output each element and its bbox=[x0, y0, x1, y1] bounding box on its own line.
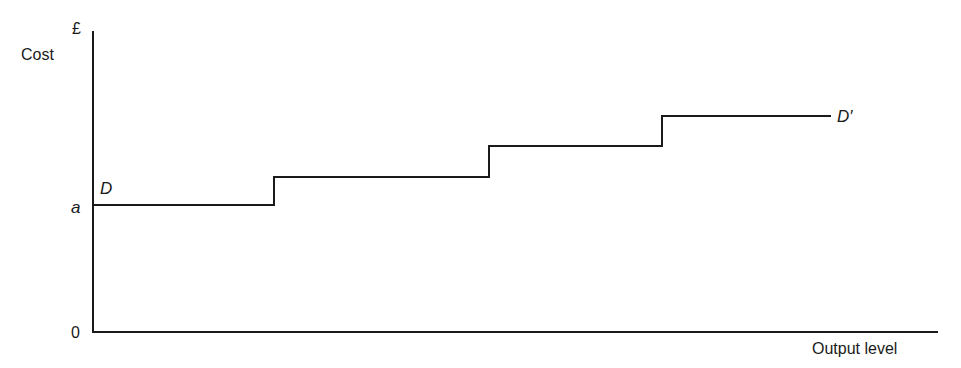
x-axis-label: Output level bbox=[812, 341, 897, 357]
curve-start-label: D bbox=[100, 180, 112, 197]
step-cost-line bbox=[93, 116, 831, 205]
curve-end-label: D′ bbox=[837, 108, 852, 125]
currency-symbol: £ bbox=[72, 21, 81, 37]
y-tick-zero: 0 bbox=[71, 325, 80, 341]
chart-canvas bbox=[0, 0, 961, 368]
y-axis-label: Cost bbox=[21, 47, 54, 63]
y-tick-a: a bbox=[71, 199, 80, 216]
